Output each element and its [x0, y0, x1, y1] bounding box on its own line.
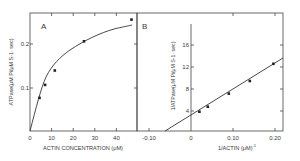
a-xtick-10: 10 — [48, 135, 55, 141]
panel-b: B -0.10 0 0.10 0.20 4 8 12 16 1/ACTIN (μ… — [137, 13, 283, 151]
a-xtick-20: 20 — [70, 135, 77, 141]
panel-a-fit-curve — [30, 25, 132, 131]
a-ytick-0.2: 0.2 — [21, 41, 30, 47]
b-y-axis-label: 1/ATPase(μM Pi/μM S-1· sec) — [170, 41, 176, 110]
a-y-axis-label: ATPase(μM Pi/μM S-1· sec) — [8, 38, 14, 105]
b-ytick-16: 16 — [182, 42, 189, 48]
b-x-axis-label-sup: -1 — [253, 143, 257, 148]
a-xtick-30: 30 — [91, 135, 98, 141]
b-x-axis-label-main: 1/ACTIN (μM) — [218, 145, 253, 151]
panel-a-points — [38, 18, 133, 99]
b-xtick-0.10: 0.10 — [227, 135, 239, 141]
figure: A 0 10 20 30 40 0.1 0.2 ACTIN CONCENTRAT… — [0, 0, 300, 161]
a-xtick-40: 40 — [113, 135, 120, 141]
a-xtick-0: 0 — [28, 135, 32, 141]
b-xtick-0.20: 0.20 — [269, 135, 281, 141]
b-x-axis-label: 1/ACTIN (μM)-1 — [218, 143, 257, 151]
panel-a-label: A — [41, 22, 47, 31]
a-ytick-0.1: 0.1 — [21, 85, 30, 91]
b-ytick-8: 8 — [186, 86, 190, 92]
b-xtick-0: 0 — [189, 135, 193, 141]
b-xtick-neg0.10: -0.10 — [142, 135, 156, 141]
a-x-axis-label: ACTIN CONCENTRATION (μM) — [43, 145, 123, 151]
panel-a: A 0 10 20 30 40 0.1 0.2 ACTIN CONCENTRAT… — [8, 13, 137, 151]
b-ytick-4: 4 — [186, 108, 190, 114]
b-ytick-12: 12 — [182, 64, 189, 70]
panel-b-label: B — [142, 22, 147, 31]
